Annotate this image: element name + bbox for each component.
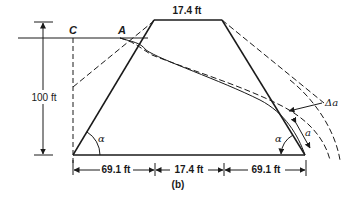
right-angle-arc: [281, 135, 293, 154]
figure-caption: (b): [172, 179, 185, 190]
top-width-label: 17.4 ft: [173, 5, 203, 16]
height-label: 100 ft: [31, 92, 56, 103]
right-angle-label: α: [275, 133, 282, 144]
basic-parabola-dashed: [120, 38, 330, 160]
left-angle-label: α: [98, 133, 105, 144]
dashed-downstream-line: [222, 20, 324, 103]
a-label: a: [305, 127, 311, 138]
dam-seepage-diagram: 100 ft C A 17.4 ft Δa a α α: [0, 0, 347, 198]
base-dim-middle-label: 17.4 ft: [175, 164, 205, 175]
dam-cross-section: [73, 20, 305, 155]
base-dim-left-label: 69.1 ft: [102, 164, 132, 175]
point-c-label: C: [69, 24, 78, 36]
outer-parabola-dashed: [290, 80, 340, 160]
delta-a-leader: [289, 103, 322, 111]
delta-a-label: Δa: [324, 97, 338, 108]
point-a-label: A: [117, 24, 126, 36]
height-dimension: [34, 22, 53, 155]
dashed-upstream-slope: [73, 20, 155, 87]
base-dim-right-label: 69.1 ft: [252, 164, 282, 175]
